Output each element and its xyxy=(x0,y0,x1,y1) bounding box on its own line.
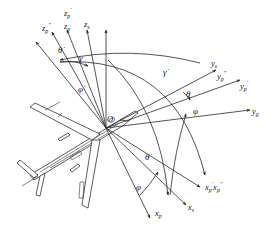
label-phi-right: φ xyxy=(193,106,198,116)
origin-label: O xyxy=(107,114,113,124)
label-theta: θ xyxy=(186,89,191,99)
label-yg: yg xyxy=(251,106,259,117)
label-zp-double-prime: zp″ xyxy=(41,22,51,34)
axis-zs xyxy=(87,30,106,128)
aircraft-illustration xyxy=(17,102,138,208)
label-zs: zs xyxy=(83,19,90,30)
angle-arcs xyxy=(60,53,205,195)
label-yp-double-prime: yp″ xyxy=(216,70,227,82)
label-xp: xp xyxy=(154,208,162,219)
arc-phi-right xyxy=(170,114,186,195)
label-ys: ys xyxy=(210,58,218,69)
label-yp-prime: yp′ xyxy=(239,80,249,92)
label-xs: xs xyxy=(187,202,195,213)
label-zp: zp xyxy=(63,21,70,32)
label-phi-bottom: φ xyxy=(136,182,141,192)
label-xp-prime-double-prime: xp′xp″ xyxy=(204,181,223,193)
axis-ys xyxy=(106,70,216,128)
axis-zp xyxy=(67,30,106,128)
coordinate-frame-diagram: zp″ zp′ zp zs ys yp″ yp′ yg xp′xp″ xs xp… xyxy=(0,0,268,234)
label-gamma-dot: γ̇ xyxy=(163,67,170,77)
label-gamma: γ xyxy=(79,53,83,63)
label-theta-dot-bottom: θ̇ xyxy=(145,152,152,162)
axis-yp-prime xyxy=(106,80,240,128)
label-zp-prime: zp′ xyxy=(63,7,72,19)
label-phi-dot: φ̇ xyxy=(78,84,86,94)
